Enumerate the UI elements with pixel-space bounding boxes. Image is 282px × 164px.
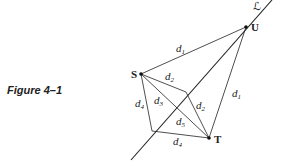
label-t: T [214, 133, 222, 145]
point-t [207, 136, 211, 140]
label-d1-ut: d1 [232, 87, 241, 101]
label-line-l: ℒ [253, 0, 261, 12]
label-d4-sp2: d4 [135, 97, 145, 111]
point-s [139, 72, 143, 76]
point-u [244, 25, 248, 29]
label-d2-p1t: d2 [196, 99, 206, 113]
label-d1-su: d1 [176, 42, 185, 56]
label-d5: d5 [176, 115, 186, 129]
label-u: U [251, 21, 259, 33]
label-d3: d3 [154, 94, 164, 108]
segment-s-u [141, 27, 246, 74]
segment-p2-t [152, 131, 209, 138]
segment-s-p1 [141, 74, 186, 92]
label-d4-p2t: d4 [173, 135, 183, 149]
segment-u-t [209, 27, 246, 138]
geometry-diagram: U S T ℒ d1 d1 d2 d2 d3 d5 d4 d4 [0, 0, 282, 164]
label-s: S [131, 68, 137, 80]
label-d2-sp1: d2 [165, 70, 175, 84]
